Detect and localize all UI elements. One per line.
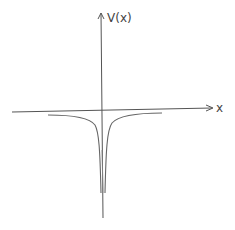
curve-right-branch <box>105 113 162 193</box>
potential-diagram: V(x) x <box>0 0 235 230</box>
curve-left-branch <box>48 115 101 193</box>
potential-curve <box>48 113 162 193</box>
y-axis-label: V(x) <box>107 11 132 25</box>
x-axis-label: x <box>216 101 223 115</box>
x-axis <box>12 105 213 112</box>
